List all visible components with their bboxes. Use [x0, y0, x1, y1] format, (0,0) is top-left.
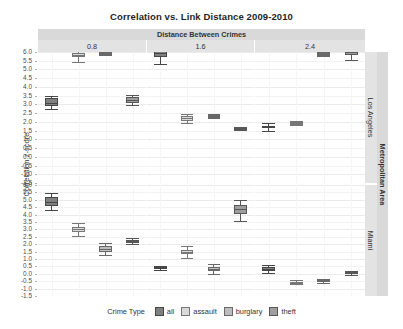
panel-los-angeles-1.6	[147, 52, 254, 183]
gridline	[38, 229, 146, 230]
boxplot-median	[126, 241, 138, 242]
gridline-vertical	[351, 52, 352, 183]
boxplot-whisker-cap-lower	[72, 62, 84, 63]
y-axis-tick-mark	[35, 215, 37, 216]
y-axis-tick-mark	[35, 200, 37, 201]
y-axis-tick-mark	[35, 69, 37, 70]
y-axis-tick-label: 4.0	[10, 84, 32, 90]
legend-item-all[interactable]: all	[155, 307, 174, 316]
y-axis-tick-label: 1.5	[10, 128, 32, 134]
gridline	[147, 281, 254, 282]
gridline	[255, 192, 365, 193]
facet-label-distance-1: 1.6	[147, 40, 254, 52]
gridline-vertical	[214, 185, 215, 296]
legend-title: Crime Type	[107, 307, 145, 316]
gridline	[38, 215, 146, 216]
gridline	[255, 78, 365, 79]
boxplot-median	[262, 127, 275, 128]
legend-item-theft[interactable]: theft	[269, 307, 295, 316]
gridline	[147, 122, 254, 123]
y-axis-tick-label: 0.5	[10, 145, 32, 151]
y-axis-tick-mark	[35, 104, 37, 105]
gridline	[38, 113, 146, 114]
y-axis-tick-mark	[35, 87, 37, 88]
facet-label-area-text-1: Miami	[367, 231, 376, 250]
gridline	[147, 78, 254, 79]
gridline-vertical	[79, 52, 80, 183]
y-axis-tick-label: 1.0	[10, 256, 32, 262]
boxplot-median	[234, 209, 246, 210]
gridline	[147, 229, 254, 230]
y-axis-tick-label: -1.0	[10, 286, 32, 292]
panel-los-angeles-2.4	[255, 52, 365, 183]
y-axis-tick-mark	[35, 174, 37, 175]
y-axis-tick-label: 5.0	[10, 197, 32, 203]
gridline	[255, 148, 365, 149]
boxplot-whisker-cap-upper	[262, 123, 275, 124]
legend-label-burglary: burglary	[236, 307, 263, 316]
gridline	[38, 266, 146, 267]
gridline	[255, 113, 365, 114]
gridline	[255, 222, 365, 223]
page-title: Correlation vs. Link Distance 2009-2010	[0, 11, 403, 22]
gridline	[147, 185, 254, 186]
boxplot-median	[154, 268, 166, 269]
panel-miami-1.6	[147, 185, 254, 296]
boxplot-whisker-cap-upper	[234, 200, 246, 201]
legend: Crime Type allassaultburglarytheft	[0, 303, 403, 319]
boxplot-median	[290, 124, 303, 125]
gridline-vertical	[52, 52, 53, 183]
gridline	[255, 215, 365, 216]
legend-key-theft	[269, 307, 278, 316]
gridline-vertical	[79, 185, 80, 296]
gridline	[147, 259, 254, 260]
gridline-vertical	[324, 52, 325, 183]
boxplot-median	[181, 118, 193, 119]
gridline	[38, 259, 146, 260]
gridline	[255, 207, 365, 208]
legend-key-burglary	[224, 307, 233, 316]
y-axis-tick-mark	[35, 229, 37, 230]
gridline	[38, 139, 146, 140]
y-axis-tick-mark	[35, 222, 37, 223]
y-axis-tick-mark	[35, 183, 37, 184]
legend-label-all: all	[167, 307, 174, 316]
boxplot-whisker-cap-lower	[208, 274, 220, 275]
gridline	[255, 244, 365, 245]
gridline	[38, 222, 146, 223]
gridline-vertical	[187, 185, 188, 296]
y-axis-tick-mark	[35, 122, 37, 123]
gridline	[147, 139, 254, 140]
gridline	[38, 289, 146, 290]
boxplot-whisker-cap-upper	[45, 96, 57, 97]
gridline	[38, 174, 146, 175]
gridline	[255, 69, 365, 70]
y-axis-tick-label: 3.0	[10, 101, 32, 107]
y-axis-tick-mark	[35, 289, 37, 290]
boxplot-median	[181, 252, 193, 253]
gridline	[147, 289, 254, 290]
gridline-vertical	[106, 52, 107, 183]
y-axis-tick-label: 6.0	[10, 49, 32, 55]
boxplot-whisker-cap-lower	[262, 131, 275, 132]
gridline	[255, 61, 365, 62]
y-axis-tick-mark	[35, 96, 37, 97]
y-axis-tick-mark	[35, 259, 37, 260]
y-axis-tick-label: -1.0	[10, 171, 32, 177]
boxplot-whisker-cap-lower	[154, 270, 166, 271]
gridline	[255, 139, 365, 140]
legend-item-burglary[interactable]: burglary	[224, 307, 263, 316]
y-axis-tick-label: 0.0	[10, 271, 32, 277]
panel-los-angeles-0.8	[38, 52, 146, 183]
boxplot-median	[208, 269, 220, 270]
y-axis-tick-mark	[35, 113, 37, 114]
boxplot-whisker-cap-upper	[72, 223, 84, 224]
facet-strip-metropolitan-area-label: Metropolitan Area	[378, 143, 387, 205]
facet-label-area-0: Los Angeles	[365, 52, 377, 183]
boxplot-whisker-cap-lower	[181, 258, 193, 259]
gridline	[38, 157, 146, 158]
y-axis-tick-label: 2.0	[10, 241, 32, 247]
gridline	[147, 215, 254, 216]
gridline	[255, 281, 365, 282]
legend-item-assault[interactable]: assault	[181, 307, 216, 316]
